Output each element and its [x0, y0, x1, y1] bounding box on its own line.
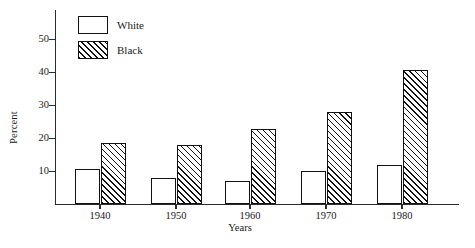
x-axis-label: Years	[180, 222, 300, 233]
x-tick-label: 1980	[372, 210, 432, 221]
bar-black-1960	[251, 129, 276, 204]
y-tick-label: 10	[9, 166, 49, 176]
bar-black-1970	[327, 112, 352, 204]
y-tick-mark	[49, 72, 55, 73]
bar-white-1950	[151, 178, 176, 204]
bar-black-1950	[177, 145, 202, 204]
legend-label-black: Black	[117, 44, 143, 56]
bar-chart: Percent Years 1020304050 194019501960197…	[0, 0, 475, 248]
x-tick-mark	[175, 204, 176, 209]
bar-white-1980	[377, 165, 402, 204]
legend-label-white: White	[117, 19, 144, 31]
x-tick-label: 1970	[296, 210, 356, 221]
x-tick-mark	[249, 204, 250, 209]
x-tick-label: 1950	[146, 210, 206, 221]
bar-white-1960	[225, 181, 250, 204]
x-axis-line	[55, 204, 459, 205]
legend-swatch-white	[78, 16, 108, 34]
x-tick-mark	[99, 204, 100, 209]
x-tick-mark	[325, 204, 326, 209]
y-axis-line	[55, 10, 56, 205]
x-tick-label: 1960	[220, 210, 280, 221]
chart-legend: White Black	[78, 14, 144, 64]
bar-black-1940	[101, 143, 126, 204]
y-tick-label: 40	[9, 67, 49, 77]
bar-black-1980	[403, 70, 428, 204]
y-tick-mark	[49, 171, 55, 172]
y-tick-mark	[49, 39, 55, 40]
y-tick-label: 20	[9, 133, 49, 143]
legend-swatch-black	[78, 41, 108, 59]
y-tick-mark	[49, 138, 55, 139]
y-tick-label: 50	[9, 34, 49, 44]
legend-item-white: White	[78, 14, 144, 35]
legend-item-black: Black	[78, 39, 144, 60]
y-tick-mark	[49, 105, 55, 106]
bar-white-1970	[301, 171, 326, 204]
x-tick-label: 1940	[70, 210, 130, 221]
x-tick-mark	[401, 204, 402, 209]
y-tick-label: 30	[9, 100, 49, 110]
bar-white-1940	[75, 169, 100, 204]
